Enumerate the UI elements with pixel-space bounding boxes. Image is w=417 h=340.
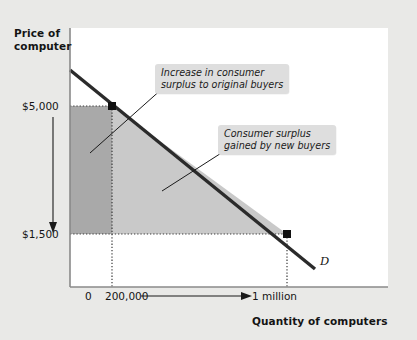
- y-tick-label-5000: $5,000: [22, 100, 59, 112]
- point-marker-1500: [283, 230, 291, 238]
- x-tick-label-200000: 200,000: [105, 290, 148, 302]
- point-marker-5000: [108, 102, 116, 110]
- y-axis-title: Price of computer: [14, 27, 72, 52]
- surplus-original-buyers-region: [70, 106, 112, 234]
- callout-surplus-gained-new-buyers: Consumer surplus gained by new buyers: [218, 125, 336, 155]
- callout-increase-surplus-original-buyers: Increase in consumer surplus to original…: [155, 64, 289, 94]
- y-tick-label-1500: $1,500: [22, 228, 59, 240]
- x-tick-label-1million: 1 million: [252, 290, 297, 302]
- x-tick-label-zero: 0: [85, 290, 92, 302]
- x-axis-title: Quantity of computers: [252, 315, 388, 328]
- demand-curve-label: D: [320, 254, 329, 268]
